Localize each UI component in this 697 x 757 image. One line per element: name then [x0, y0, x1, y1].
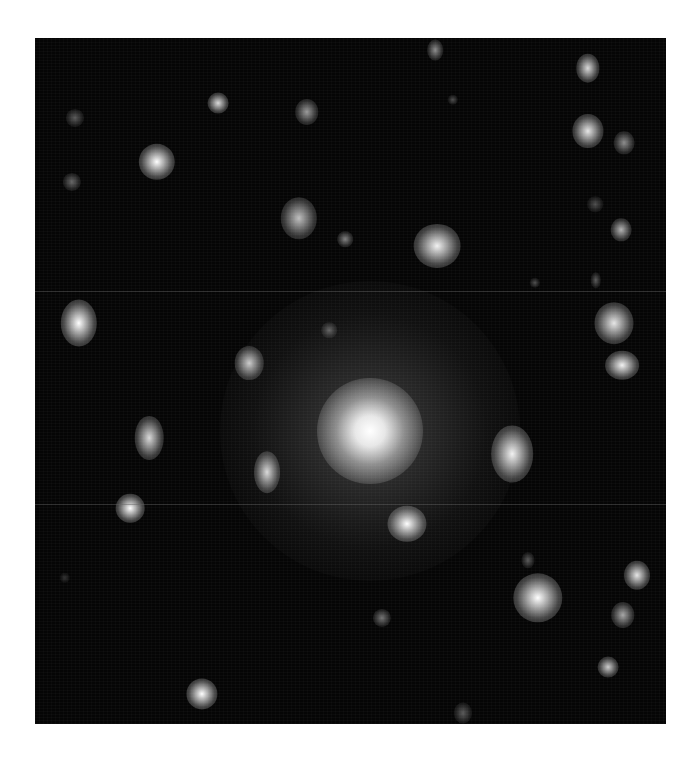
galaxy [66, 109, 84, 127]
galaxy [373, 609, 391, 627]
galaxy-cluster-image [35, 38, 666, 724]
central-galaxy-halo [220, 281, 520, 581]
galaxy [61, 300, 97, 347]
galaxy [522, 552, 535, 568]
galaxy [388, 506, 427, 542]
central-galaxy-core [317, 378, 423, 484]
galaxy [254, 451, 280, 493]
galaxy [186, 678, 217, 709]
galaxy [595, 302, 634, 344]
galaxy [624, 561, 650, 590]
galaxy [321, 322, 337, 338]
galaxy [513, 573, 562, 622]
galaxy [281, 197, 317, 239]
galaxy [491, 425, 533, 482]
galaxy [448, 95, 458, 105]
galaxy [591, 272, 601, 288]
galaxy [605, 351, 639, 380]
galaxy [611, 602, 634, 628]
galaxy [235, 346, 264, 380]
galaxy [295, 99, 318, 125]
galaxy [587, 196, 603, 212]
galaxy [454, 703, 472, 724]
galaxy [337, 231, 353, 247]
galaxy [63, 173, 81, 191]
noise-overlay [35, 38, 666, 724]
galaxy [139, 144, 175, 180]
galaxy [530, 278, 540, 288]
galaxy [614, 131, 635, 154]
galaxy [572, 114, 603, 148]
galaxy [414, 224, 461, 268]
galaxy [208, 93, 229, 114]
galaxy [576, 54, 599, 83]
galaxy [427, 40, 443, 61]
galaxy [598, 657, 619, 678]
scanline-artifact [35, 291, 666, 292]
galaxy [135, 416, 164, 460]
scanline-artifact [35, 504, 666, 505]
galaxy [116, 494, 145, 523]
galaxy [60, 573, 70, 583]
galaxy [611, 218, 632, 241]
